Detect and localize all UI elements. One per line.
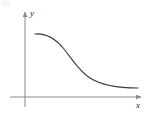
plot-area — [0, 0, 149, 116]
chart-figure: (2) y x — [0, 0, 149, 116]
y-axis-label: y — [30, 9, 34, 18]
decreasing-curve — [35, 34, 138, 88]
x-axis-label: x — [136, 101, 140, 110]
